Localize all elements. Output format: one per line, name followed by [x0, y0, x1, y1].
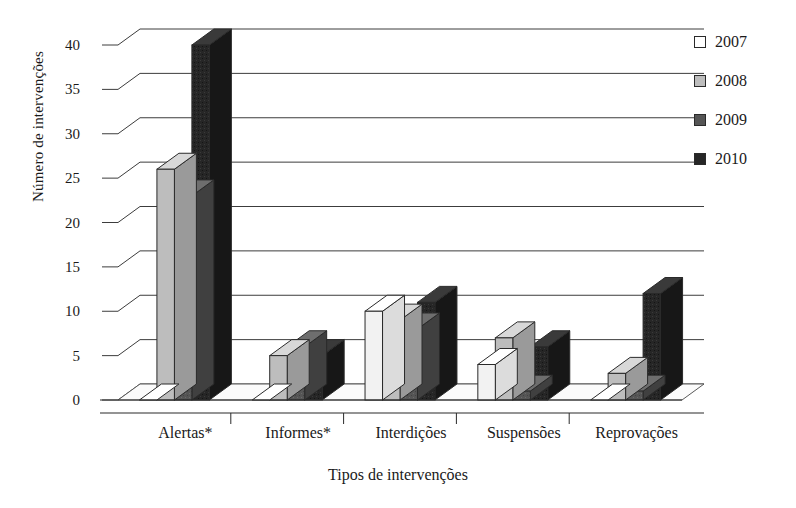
y-tick-label-0: 0 [40, 392, 80, 409]
legend-label-2009: 2009 [715, 112, 747, 128]
x-tick-label-2: Interdições [375, 424, 446, 442]
y-tick-label-30: 30 [40, 125, 80, 142]
y-tick-label-25: 25 [40, 170, 80, 187]
legend: 2007 2008 2009 2010 [694, 34, 747, 190]
bar-alertas-2008 [157, 153, 196, 400]
y-tick-label-10: 10 [40, 303, 80, 320]
x-tick-label-0: Alertas* [158, 424, 212, 442]
bar-interdies-2007 [365, 295, 404, 400]
legend-label-2010: 2010 [715, 151, 747, 167]
y-tick-label-40: 40 [40, 37, 80, 54]
legend-item-2010[interactable]: 2010 [694, 151, 747, 167]
legend-item-2008[interactable]: 2008 [694, 73, 747, 89]
legend-label-2007: 2007 [715, 34, 747, 50]
legend-label-2008: 2008 [715, 73, 747, 89]
axis-lines [100, 400, 704, 424]
legend-item-2009[interactable]: 2009 [694, 112, 747, 128]
chart-figure: Número de intervenções Tipos de interven… [0, 0, 796, 508]
x-tick-label-3: Suspensões [487, 424, 561, 442]
bars-layer [139, 29, 682, 400]
legend-swatch-2010 [694, 153, 706, 165]
y-tick-label-20: 20 [40, 214, 80, 231]
y-tick-label-35: 35 [40, 81, 80, 98]
y-tick-label-5: 5 [40, 347, 80, 364]
legend-swatch-2007 [694, 36, 706, 48]
x-tick-label-4: Reprovações [595, 424, 678, 442]
y-tick-label-15: 15 [40, 258, 80, 275]
x-tick-label-1: Informes* [265, 424, 331, 442]
legend-item-2007[interactable]: 2007 [694, 34, 747, 50]
legend-swatch-2008 [694, 75, 706, 87]
legend-swatch-2009 [694, 114, 706, 126]
